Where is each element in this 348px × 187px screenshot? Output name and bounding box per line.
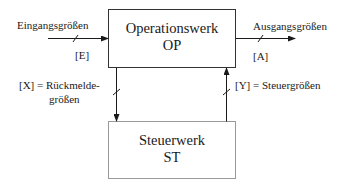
steuerwerk-label: Steuerwerk ST (108, 132, 236, 166)
steuerwerk-name: Steuerwerk (108, 132, 236, 149)
input-bus-label: [E] (75, 49, 89, 61)
operationswerk-name: Operationswerk (108, 20, 236, 37)
operationswerk-label: Operationswerk OP (108, 20, 236, 54)
steuerwerk-abbr: ST (108, 149, 236, 166)
feedback-label-line1: [X] = Rückmelde- (19, 79, 100, 91)
feedback-label-line2: größen (49, 93, 80, 105)
control-label: [Y] = Steuergrößen (235, 79, 320, 91)
output-bus-label: [A] (253, 50, 268, 62)
input-label: Eingangsgrößen (17, 19, 88, 31)
output-label: Ausgangsgrößen (253, 20, 327, 32)
operationswerk-abbr: OP (108, 37, 236, 54)
